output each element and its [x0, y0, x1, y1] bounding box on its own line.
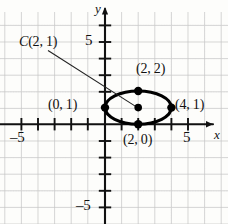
label-left-vertex: (0, 1)	[48, 98, 77, 112]
y-tick-label-neg5: –5	[76, 198, 91, 213]
point-top-vertex	[134, 87, 142, 95]
ellipse-coordinate-figure: C(2, 1) (2, 2) (0, 1) (4, 1) (2, 0) 5 –5…	[0, 0, 228, 224]
label-top-vertex: (2, 2)	[136, 62, 165, 76]
label-bottom-vertex: (2, 0)	[123, 133, 152, 147]
label-right-vertex: (4, 1)	[175, 98, 204, 112]
x-tick-label-5: 5	[183, 130, 190, 145]
point-bottom-vertex	[134, 120, 142, 128]
point-left-vertex	[101, 103, 109, 111]
y-axis-label: y	[95, 2, 101, 15]
x-axis-arrow	[206, 121, 213, 127]
marked-points	[101, 87, 176, 129]
y-tick-label-5: 5	[85, 33, 92, 48]
center-label-coords: (2, 1)	[28, 34, 57, 49]
center-point-label: C(2, 1)	[19, 35, 57, 49]
x-axis-label: x	[214, 128, 220, 141]
point-center	[134, 104, 142, 112]
x-tick-label-neg5: –5	[10, 130, 25, 145]
y-axis-arrow	[102, 7, 108, 15]
center-label-letter: C	[19, 34, 28, 49]
